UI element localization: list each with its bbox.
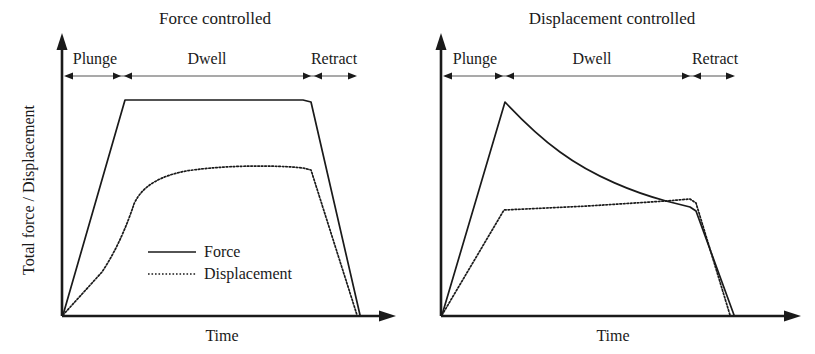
chart-title-left: Force controlled bbox=[159, 9, 271, 28]
phase-label-retract-right: Retract bbox=[692, 50, 739, 67]
x-axis-label-left: Time bbox=[205, 327, 238, 344]
x-axis-label-right: Time bbox=[596, 327, 629, 344]
force-controlled-svg: Force controlled Total force / Displacem… bbox=[0, 0, 407, 354]
y-axis-arrowhead bbox=[436, 33, 447, 50]
legend-label-displacement: Displacement bbox=[204, 265, 293, 283]
x-axis-arrowhead bbox=[379, 311, 396, 322]
curve-force-right bbox=[442, 102, 734, 315]
x-axis-arrowhead bbox=[784, 311, 801, 322]
chart-panel-displacement-controlled: Displacement controlled Time bbox=[408, 0, 815, 354]
figure-root: Force controlled Total force / Displacem… bbox=[0, 0, 815, 354]
phase-label-plunge-right: Plunge bbox=[453, 50, 497, 68]
legend-left: Force Displacement bbox=[148, 243, 293, 283]
curve-force-left bbox=[63, 100, 360, 315]
displacement-controlled-svg: Displacement controlled Time bbox=[408, 0, 815, 354]
y-axis-arrowhead bbox=[57, 33, 68, 50]
phase-label-plunge-left: Plunge bbox=[73, 50, 117, 68]
legend-label-force: Force bbox=[204, 243, 240, 260]
x-axis-left bbox=[62, 311, 396, 322]
phase-label-dwell-right: Dwell bbox=[572, 50, 612, 67]
x-axis-right bbox=[441, 311, 801, 322]
curve-displacement-right bbox=[442, 199, 730, 315]
curve-displacement-left bbox=[63, 166, 357, 315]
y-axis-label-left: Total force / Displacement bbox=[20, 104, 38, 274]
phase-label-dwell-left: Dwell bbox=[187, 50, 227, 67]
phase-label-retract-left: Retract bbox=[311, 50, 358, 67]
chart-panel-force-controlled: Force controlled Total force / Displacem… bbox=[0, 0, 407, 354]
phase-dimension-line-right bbox=[443, 73, 735, 80]
phase-dimension-line-left bbox=[64, 73, 357, 80]
chart-title-right: Displacement controlled bbox=[529, 9, 696, 28]
